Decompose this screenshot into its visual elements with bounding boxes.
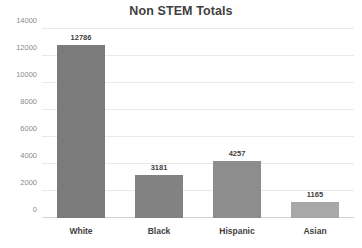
x-axis-category-label: Hispanic (219, 226, 254, 236)
y-axis-tick-label: 0 (0, 205, 37, 214)
bar[interactable]: 1165 (291, 202, 339, 218)
y-axis-tick-label: 8000 (0, 97, 37, 106)
bar[interactable]: 4257 (213, 161, 261, 218)
bar-group: 12786White (42, 29, 120, 218)
x-axis-category-label: Black (148, 226, 171, 236)
bar-value-label: 3181 (151, 163, 168, 172)
bar-value-label: 12786 (71, 33, 92, 42)
bar-value-label: 4257 (229, 149, 246, 158)
chart-title: Non STEM Totals (0, 4, 362, 18)
bar-group: 3181Black (120, 29, 198, 218)
bar[interactable]: 12786 (57, 45, 105, 218)
plot-area: 02000400060008000100001200014000 12786Wh… (42, 29, 354, 218)
x-axis-category-label: White (69, 226, 92, 236)
bar-value-label: 1165 (307, 190, 323, 199)
bar[interactable]: 3181 (135, 175, 183, 218)
bar-group: 1165Asian (276, 29, 354, 218)
y-axis-tick-label: 4000 (0, 151, 37, 160)
y-axis-tick-label: 2000 (0, 178, 37, 187)
bar-group: 4257Hispanic (198, 29, 276, 218)
y-axis-tick-label: 14000 (0, 16, 37, 25)
y-axis-tick-label: 12000 (0, 43, 37, 52)
bar-chart: Non STEM Totals 020004000600080001000012… (0, 0, 362, 248)
x-axis-category-label: Asian (303, 226, 326, 236)
y-axis-tick-label: 6000 (0, 124, 37, 133)
y-axis-tick-label: 10000 (0, 70, 37, 79)
